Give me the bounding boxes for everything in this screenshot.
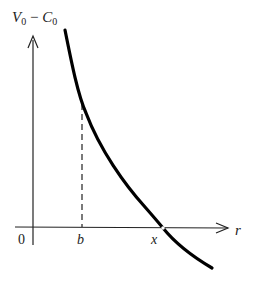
x-axis-label: r (235, 222, 241, 238)
potential-curve (65, 30, 212, 268)
tick-x-label: x (150, 232, 158, 247)
y-axis-label: V0 − C0 (12, 9, 57, 27)
potential-diagram: V0 − C0 r 0 b x (0, 0, 253, 281)
origin-label: 0 (18, 232, 25, 247)
x-axis (15, 227, 228, 228)
curve-axis-intersection (161, 226, 165, 230)
tick-b-label: b (77, 232, 84, 247)
